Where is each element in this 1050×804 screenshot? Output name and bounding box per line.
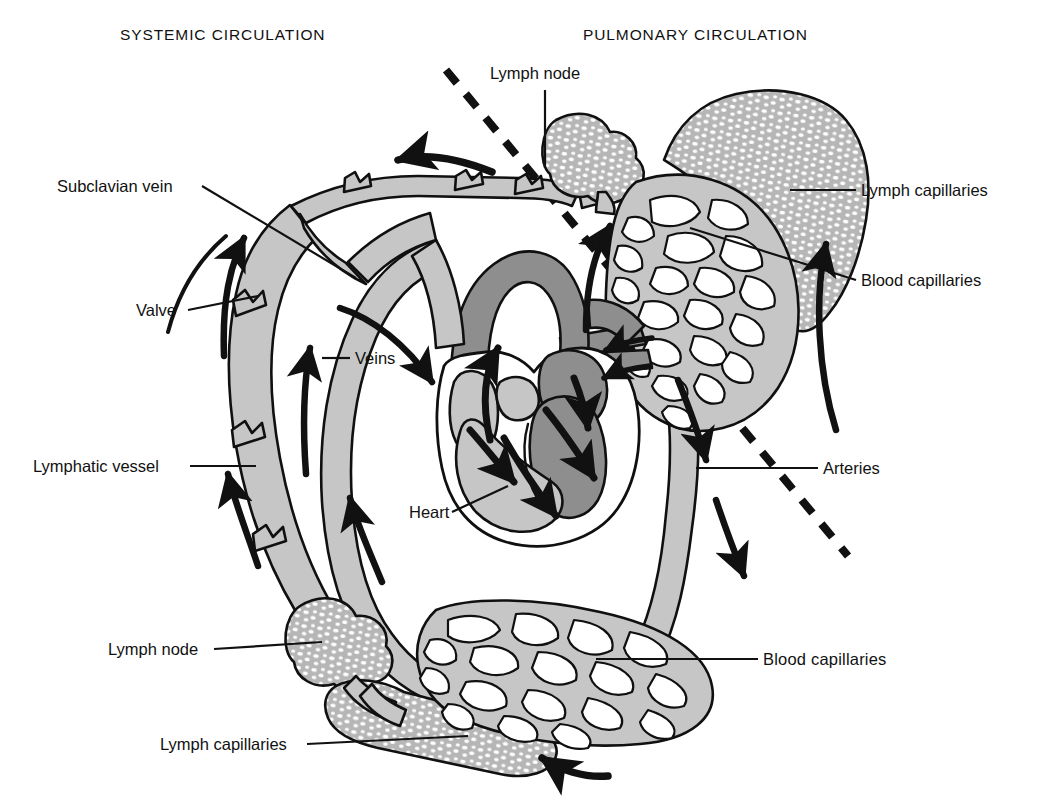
- label-heart: Heart: [409, 503, 450, 521]
- header-systemic: SYSTEMIC CIRCULATION: [120, 26, 325, 43]
- label-lymph-capillaries-right: Lymph capillaries: [861, 181, 988, 199]
- label-lymph-capillaries-bottom: Lymph capillaries: [160, 735, 287, 753]
- header-pulmonary: PULMONARY CIRCULATION: [583, 26, 808, 43]
- vena-cava: [412, 240, 464, 348]
- arrow-artery-descend-lower: [716, 500, 744, 576]
- label-subclavian-vein: Subclavian vein: [57, 177, 173, 195]
- label-lymphatic-vessel: Lymphatic vessel: [33, 457, 159, 475]
- arrow-vein-ascend: [304, 348, 310, 474]
- label-arteries: Arteries: [823, 459, 880, 477]
- lymphatic-duct: [229, 205, 336, 632]
- arrow-subclavian-top: [398, 157, 492, 172]
- label-lymph-node-top: Lymph node: [490, 64, 580, 82]
- arrow-valve-curve: [168, 236, 226, 332]
- arrow-capillary-inflow: [542, 758, 608, 776]
- label-blood-capillaries-right: Blood capillaries: [861, 271, 981, 289]
- figure-canvas: SYSTEMIC CIRCULATION PULMONARY CIRCULATI…: [0, 0, 1050, 804]
- circulation-diagram: SYSTEMIC CIRCULATION PULMONARY CIRCULATI…: [0, 0, 1050, 804]
- label-valve: Valve: [136, 301, 176, 319]
- subclavian-branch: [300, 214, 366, 284]
- heart-central-auricle: [496, 377, 538, 420]
- vessel-artwork: [229, 90, 869, 776]
- label-lymph-node-bottom: Lymph node: [108, 640, 198, 658]
- label-blood-capillaries-bottom: Blood capillaries: [763, 650, 887, 668]
- label-veins: Veins: [355, 349, 395, 367]
